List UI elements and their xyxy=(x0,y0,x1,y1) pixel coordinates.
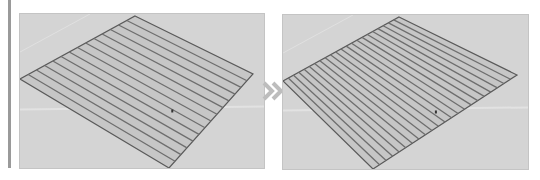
viewport-before[interactable] xyxy=(19,13,265,169)
striped-plane-after xyxy=(283,15,528,169)
striped-plane-before xyxy=(20,14,264,168)
sidebar-accent-bar xyxy=(8,0,11,168)
viewport-after[interactable] xyxy=(282,14,529,170)
